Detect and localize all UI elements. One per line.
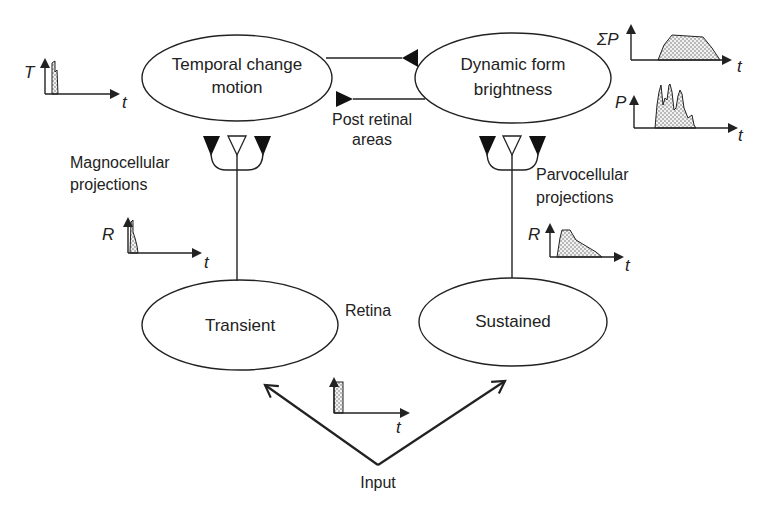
axis-x-label-t: t: [737, 57, 743, 76]
node-dynamic-label-2: brightness: [474, 80, 552, 99]
magnocellular-synapse-icon: [203, 136, 271, 281]
magnocellular-label-1: Magnocellular: [70, 154, 170, 171]
synapse-arrowhead-left-icon: [402, 49, 418, 67]
axis-y-label-P: P: [615, 93, 627, 112]
parvocellular-label-2: projections: [536, 189, 613, 206]
post-retinal-label-2: areas: [352, 131, 392, 148]
axis-y-label-R: R: [528, 225, 540, 244]
mini-plot-temporal: T t: [24, 60, 128, 112]
post-retinal-label-1: Post retinal: [332, 111, 412, 128]
axis-y-label-T: T: [24, 63, 36, 82]
node-dynamic-form: Dynamic form brightness: [415, 33, 611, 123]
axis-x-label-t: t: [738, 126, 744, 145]
mini-plot-input-pulse: t: [334, 379, 408, 437]
node-sustained: Sustained: [419, 278, 607, 366]
node-transient-label: Transient: [205, 316, 276, 335]
axis-x-label-t: t: [625, 256, 631, 275]
axis-y-label-R: R: [102, 225, 114, 244]
synapse-arrowhead-right-icon: [336, 91, 353, 107]
mini-plot-parvo-response: R t: [528, 225, 631, 275]
magnocellular-label-2: projections: [70, 176, 147, 193]
retina-label: Retina: [345, 302, 391, 319]
axis-y-label-sum-p: ΣP: [596, 30, 619, 49]
parvocellular-label-1: Parvocellular: [536, 166, 629, 183]
node-sustained-label: Sustained: [475, 312, 551, 331]
axis-x-label-t: t: [204, 253, 210, 272]
mini-plot-magno-response: R t: [102, 219, 210, 272]
mini-plot-sum-p: ΣP t: [596, 26, 743, 76]
reciprocal-connections: [326, 49, 425, 107]
axis-x-label-t: t: [122, 93, 128, 112]
node-temporal-label-1: Temporal change: [172, 55, 302, 74]
input-label: Input: [360, 474, 396, 491]
input-arrows: [265, 381, 505, 465]
node-temporal-change: Temporal change motion: [142, 35, 332, 121]
node-transient: Transient: [142, 280, 338, 370]
parvocellular-synapse-icon: [479, 136, 546, 278]
visual-pathway-diagram: Temporal change motion Dynamic form brig…: [0, 0, 767, 508]
node-dynamic-label-1: Dynamic form: [461, 55, 566, 74]
mini-plot-p: P t: [615, 84, 744, 145]
node-temporal-label-2: motion: [211, 78, 262, 97]
input-arrow-to-transient-icon: [265, 385, 378, 465]
axis-x-label-t: t: [396, 418, 402, 437]
